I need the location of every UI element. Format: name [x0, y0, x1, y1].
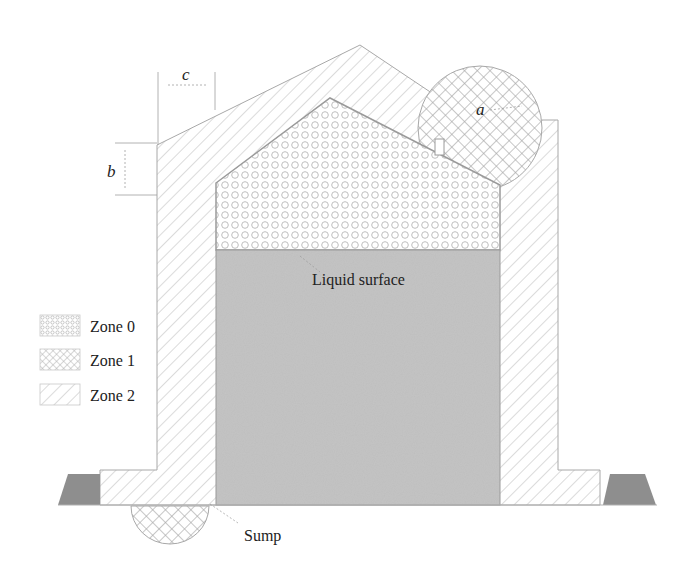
bund-wall-left — [58, 474, 100, 505]
dimension-c-label: c — [182, 65, 190, 84]
legend-zone0: Zone 0 — [40, 315, 135, 336]
sump-label: Sump — [244, 527, 281, 545]
liquid-surface-label: Liquid surface — [312, 271, 405, 289]
liquid-body — [216, 250, 500, 505]
legend-zone2: Zone 2 — [40, 384, 135, 405]
sump-zone1 — [131, 506, 209, 544]
dimension-a-label: a — [476, 100, 485, 119]
legend-zone0-label: Zone 0 — [90, 318, 135, 335]
dimension-b-label: b — [107, 162, 116, 181]
legend-zone1: Zone 1 — [40, 349, 135, 370]
legend-zone2-label: Zone 2 — [90, 387, 135, 404]
bund-wall-right — [603, 474, 656, 505]
hazardous-area-diagram: c b a Liquid surface Sump Zone 0 Zone 1 … — [0, 0, 695, 569]
vent-pipe — [435, 139, 444, 155]
legend: Zone 0 Zone 1 Zone 2 — [40, 315, 135, 405]
dimension-b — [115, 143, 157, 195]
legend-zone1-label: Zone 1 — [90, 352, 135, 369]
sump-leader — [210, 504, 238, 523]
